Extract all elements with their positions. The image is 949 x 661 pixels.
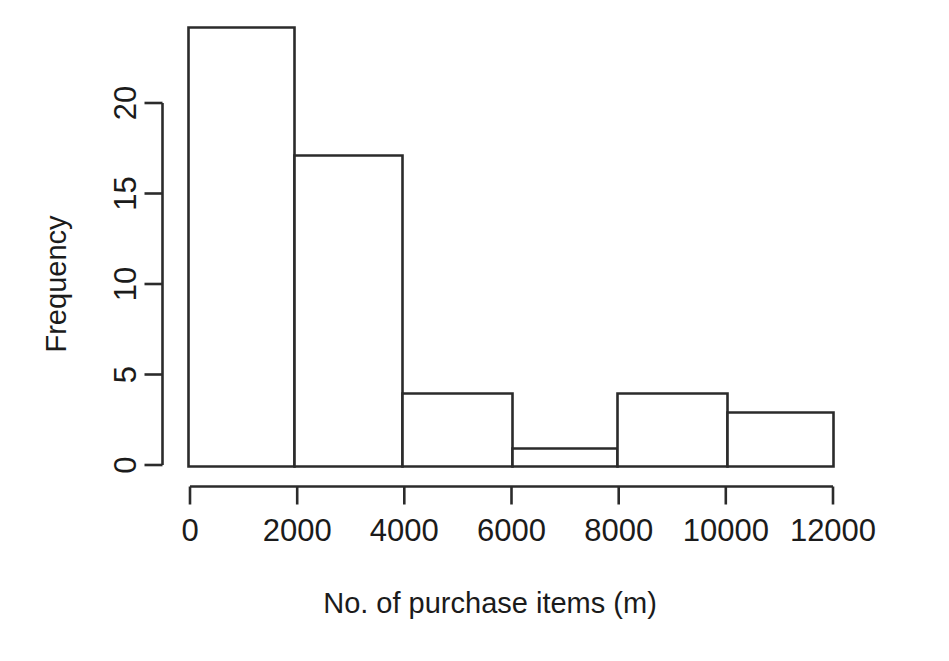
plot-canvas: 20 15 10 5 0 Frequency 0 2000 4000 6000 … — [0, 0, 949, 661]
x-axis-title: No. of purchase items (m) — [323, 587, 657, 619]
y-tick-label-5: 5 — [108, 366, 143, 383]
y-tick-label-15: 15 — [108, 176, 143, 210]
y-axis-title: Frequency — [40, 215, 72, 353]
bar-bin-2 — [295, 156, 403, 467]
y-tick-label-20: 20 — [108, 86, 143, 120]
bars-group — [189, 28, 834, 467]
x-tick-label-6000: 6000 — [477, 513, 546, 548]
x-tick-label-12000: 12000 — [790, 513, 876, 548]
y-tick-label-0: 0 — [108, 456, 143, 473]
x-axis: 0 2000 4000 6000 8000 10000 12000 No. of… — [181, 487, 876, 620]
bar-bin-4 — [513, 449, 618, 467]
bar-bin-3 — [403, 394, 513, 467]
x-tick-label-0: 0 — [181, 513, 198, 548]
y-axis: 20 15 10 5 0 Frequency — [40, 86, 163, 474]
histogram-figure: 20 15 10 5 0 Frequency 0 2000 4000 6000 … — [0, 0, 949, 661]
bar-bin-5 — [618, 394, 728, 467]
x-tick-label-2000: 2000 — [263, 513, 332, 548]
x-tick-label-4000: 4000 — [370, 513, 439, 548]
bar-bin-1 — [189, 28, 295, 467]
x-tick-label-8000: 8000 — [584, 513, 653, 548]
bar-bin-6 — [728, 413, 834, 467]
x-tick-label-10000: 10000 — [683, 513, 769, 548]
y-tick-label-10: 10 — [108, 267, 143, 301]
